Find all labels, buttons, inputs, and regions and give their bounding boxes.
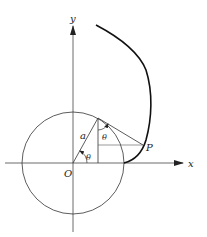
radius-label: a: [80, 130, 86, 141]
involute-diagram: y x O P a θ θ: [0, 0, 207, 237]
point-p-label: P: [145, 142, 153, 153]
angle-tangent-label: θ: [102, 133, 107, 142]
y-axis-label: y: [69, 13, 76, 24]
involute-curve: [96, 25, 151, 163]
angle-origin-label: θ: [86, 153, 91, 162]
x-axis-label: x: [188, 158, 194, 169]
origin-label: O: [64, 168, 72, 179]
